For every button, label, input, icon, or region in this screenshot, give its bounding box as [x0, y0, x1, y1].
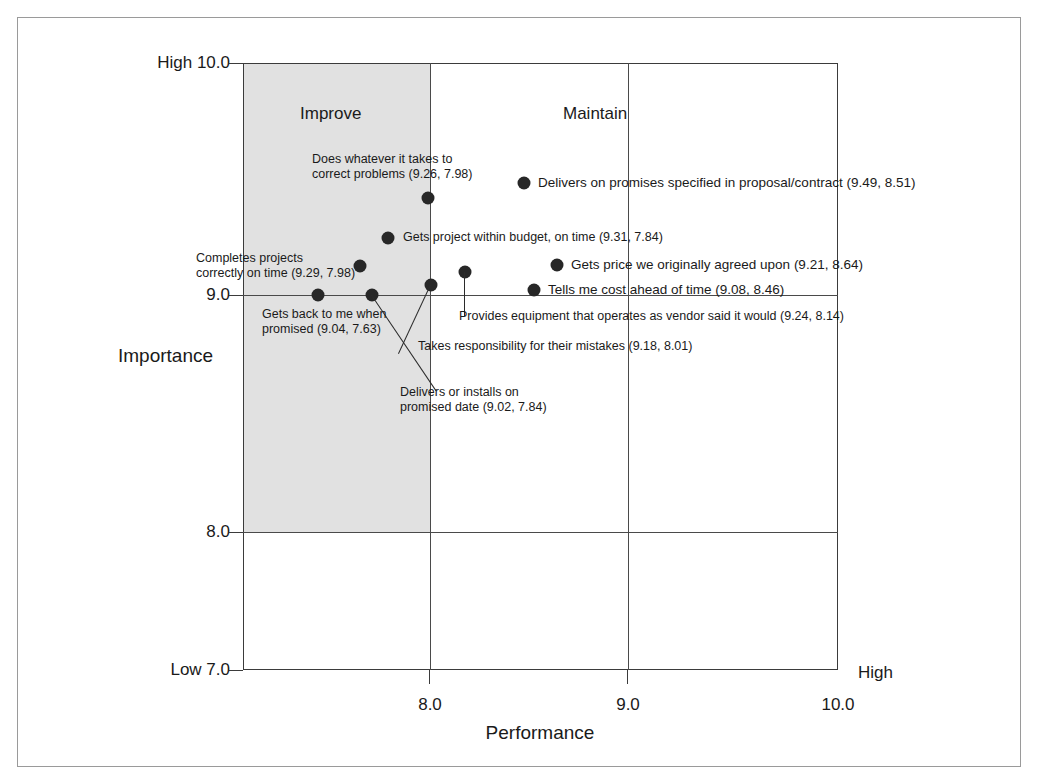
y-tickmark-7	[229, 670, 243, 671]
y-tick-label-9: 9.0	[110, 285, 230, 305]
y-tickmark-8	[229, 532, 243, 533]
x-tick-label-10: 10.0	[821, 695, 854, 715]
gridline-x-9	[628, 63, 629, 670]
annotation-gets-project-within-budget: Gets project within budget, on time (9.3…	[403, 230, 663, 245]
legend-marker-gets-price-agreed[interactable]	[551, 259, 564, 272]
annotation-provides-equipment: Provides equipment that operates as vend…	[459, 309, 844, 324]
y-tickmark-10	[229, 63, 243, 64]
x-tickmark-9	[627, 670, 628, 684]
annotation-gets-back-to-me: Gets back to me when promised (9.04, 7.6…	[262, 307, 386, 337]
annotation-delivers-or-installs: Delivers or installs on promised date (9…	[400, 385, 547, 415]
data-point-completes-projects-correctly[interactable]	[354, 260, 367, 273]
x-tick-label-9: 9.0	[616, 695, 640, 715]
quadrant-label-maintain: Maintain	[563, 104, 627, 124]
data-point-provides-equipment[interactable]	[459, 266, 472, 279]
x-tick-label-8: 8.0	[418, 695, 442, 715]
x-tickmark-8	[429, 670, 430, 684]
legend-label-tells-me-cost-ahead: Tells me cost ahead of time (9.08, 8.46)	[548, 282, 784, 298]
y-axis-title: Importance	[118, 345, 213, 367]
data-point-does-whatever-it-takes[interactable]	[422, 192, 435, 205]
y-tickmark-9	[229, 295, 243, 296]
gridline-y-8	[243, 532, 838, 533]
annotation-completes-projects-correctly: Completes projects correctly on time (9.…	[196, 251, 355, 281]
y-tick-label-8: 8.0	[110, 522, 230, 542]
quadrant-label-improve: Improve	[300, 104, 361, 124]
data-point-gets-back-to-me[interactable]	[312, 289, 325, 302]
legend-label-gets-price-agreed: Gets price we originally agreed upon (9.…	[571, 257, 863, 273]
data-point-gets-project-within-budget[interactable]	[382, 232, 395, 245]
annotation-does-whatever-it-takes: Does whatever it takes to correct proble…	[312, 152, 473, 182]
legend-marker-delivers-on-promises[interactable]	[518, 177, 531, 190]
x-axis-high-label: High	[858, 663, 893, 683]
chart-page: High 10.0 9.0 8.0 Low 7.0 Importance Imp…	[0, 0, 1038, 782]
legend-marker-tells-me-cost-ahead[interactable]	[528, 284, 541, 297]
annotation-takes-responsibility: Takes responsibility for their mistakes …	[418, 339, 692, 354]
legend-label-delivers-on-promises: Delivers on promises specified in propos…	[538, 175, 915, 191]
y-tick-label-10: High 10.0	[110, 53, 230, 73]
x-axis-title: Performance	[486, 722, 595, 744]
y-tick-label-7: Low 7.0	[110, 660, 230, 680]
